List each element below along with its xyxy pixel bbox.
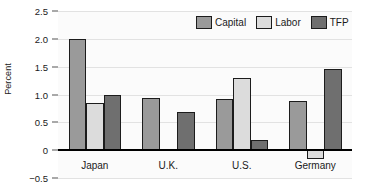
x-axis-category-label: Japan [81, 160, 108, 171]
y-axis-tick-label: 2.5 [8, 6, 48, 17]
y-axis-title: Percent [3, 49, 13, 109]
x-axis-category-label: U.S. [232, 160, 251, 171]
plot-area [58, 11, 352, 178]
bar [307, 150, 325, 158]
gridline [58, 95, 352, 96]
y-axis-tick-label: 1.0 [8, 89, 48, 100]
y-axis-tick-label: 0.5 [8, 117, 48, 128]
y-axis-tick-label: 0 [8, 145, 48, 156]
chart-legend: CapitalLaborTFP [196, 14, 355, 31]
legend-label: Capital [215, 17, 246, 28]
bar [216, 99, 234, 150]
zero-axis-line [58, 149, 352, 151]
bar [289, 101, 307, 151]
legend-swatch-icon [196, 16, 212, 29]
y-axis-tick-label: −0.5 [8, 173, 48, 184]
bar [177, 112, 195, 150]
y-axis-tick-label: 2.0 [8, 33, 48, 44]
legend-label: TFP [330, 17, 349, 28]
gridline [58, 178, 352, 179]
gridline [58, 39, 352, 40]
legend-swatch-icon [311, 16, 327, 29]
legend-swatch-icon [256, 16, 272, 29]
bar [233, 78, 251, 150]
bar [104, 95, 122, 151]
bar [69, 39, 87, 150]
bar [86, 103, 104, 150]
bar-chart: Percent 2.52.01.51.00.50−0.5 JapanU.K.U.… [0, 0, 371, 196]
gridline [58, 67, 352, 68]
x-axis-category-label: U.K. [159, 160, 178, 171]
legend-item: TFP [311, 16, 349, 29]
bar [324, 69, 342, 150]
legend-item: Labor [256, 16, 301, 29]
bar [142, 98, 160, 150]
legend-label: Labor [275, 17, 301, 28]
gridline [58, 11, 352, 12]
x-axis-category-label: Germany [295, 160, 336, 171]
legend-item: Capital [196, 16, 246, 29]
y-axis-tick-label: 1.5 [8, 61, 48, 72]
